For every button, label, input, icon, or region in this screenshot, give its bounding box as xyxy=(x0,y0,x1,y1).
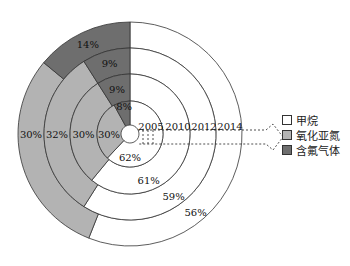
legend-item-nitrous-oxide: 氧化亚氮 xyxy=(282,127,340,142)
segment-label: 30% xyxy=(72,129,94,140)
segment-label: 30% xyxy=(20,129,42,140)
segment-label: 59% xyxy=(162,191,184,202)
segment-label: 9% xyxy=(102,58,118,69)
segment-label: 56% xyxy=(184,207,206,218)
legend-item-methane: 甲烷 xyxy=(282,112,340,127)
segment-label: 14% xyxy=(77,39,99,50)
legend-swatch-methane xyxy=(282,115,292,125)
legend-swatch-fluorinated-gas xyxy=(282,145,292,155)
legend-swatch-nitrous-oxide xyxy=(282,130,292,140)
legend-item-fluorinated-gas: 含氟气体 xyxy=(282,142,340,157)
legend-label: 甲烷 xyxy=(296,112,318,128)
segment-label: 32% xyxy=(46,129,68,140)
legend: 甲烷 氧化亚氮 含氟气体 xyxy=(282,112,340,157)
segment-label: 8% xyxy=(116,101,132,112)
legend-label: 氧化亚氮 xyxy=(296,127,340,143)
segment-label: 9% xyxy=(109,84,125,95)
segment-label: 61% xyxy=(138,175,160,186)
legend-label: 含氟气体 xyxy=(296,142,340,158)
segment-label: 62% xyxy=(119,152,141,163)
segment-label: 30% xyxy=(98,129,120,140)
